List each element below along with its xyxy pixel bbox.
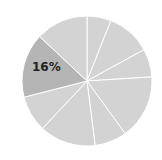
slice-label-highlight: 16% xyxy=(32,60,61,74)
pie-slices xyxy=(22,16,152,146)
pie-chart: 16% xyxy=(0,0,162,160)
